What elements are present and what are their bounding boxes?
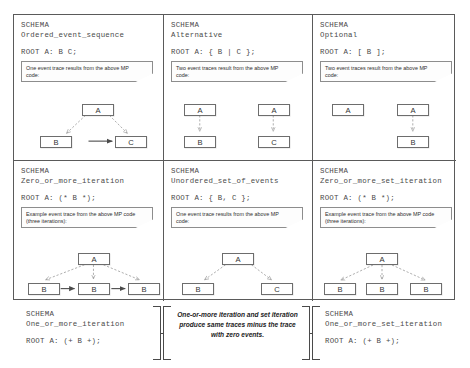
cell-ordered-event-sequence: SCHEMA Ordered_event_sequence ROOT A: B … — [14, 15, 164, 161]
event-node-b: B — [182, 283, 214, 295]
schema-name: One_or_more_set_iteration — [325, 320, 442, 328]
cell-alternative: SCHEMA Alternative ROOT A: { B | C }; Tw… — [164, 15, 313, 161]
event-node-b2: B — [366, 283, 398, 295]
event-node-b: B — [397, 136, 429, 148]
iteration-note-text: One-or-more iteration and set iteration … — [175, 310, 300, 340]
event-node-b3: B — [128, 283, 160, 295]
code-block: SCHEMA One_or_more_set_iteration — [319, 310, 455, 329]
schema-name: Zero_or_more_set_iteration — [320, 177, 442, 185]
event-node-a: A — [332, 104, 364, 116]
root-line: ROOT A: (* B *); — [320, 194, 456, 204]
root-line: ROOT A: (* B *); — [21, 194, 163, 204]
trace-callout: Two event traces result from the above M… — [171, 61, 303, 82]
schema-keyword: SCHEMA — [21, 167, 49, 175]
trace-callout: One event trace results from the above M… — [171, 207, 303, 228]
trace-callout: Example event trace from the above MP co… — [320, 207, 452, 228]
schema-keyword: SCHEMA — [320, 21, 348, 29]
schema-keyword: SCHEMA — [26, 310, 54, 318]
schema-keyword: SCHEMA — [320, 167, 348, 175]
trace-callout: Two event traces result from the above M… — [320, 61, 452, 82]
schema-name: Optional — [320, 31, 357, 39]
event-node-a: A — [82, 104, 114, 116]
event-node-a: A — [184, 104, 216, 116]
root-line: ROOT A: (+ B +); — [20, 337, 163, 347]
schema-name: Zero_or_more_iteration — [21, 177, 124, 185]
trace-callout: One event trace results from the above M… — [21, 61, 153, 82]
schema-keyword: SCHEMA — [171, 167, 199, 175]
code-block: SCHEMA Ordered_event_sequence — [21, 21, 163, 40]
event-node-c: C — [261, 283, 293, 295]
bottom-row: SCHEMA One_or_more_iteration ROOT A: (+ … — [13, 302, 455, 364]
event-node-a: A — [222, 253, 254, 265]
event-node-c: C — [115, 136, 147, 148]
cell-optional: SCHEMA Optional ROOT A: [ B ]; Two event… — [313, 15, 456, 161]
mp-schema-figure: SCHEMA Ordered_event_sequence ROOT A: B … — [0, 0, 470, 368]
trace-callout: Example event trace from the above MP co… — [21, 207, 153, 228]
event-node-a2: A — [258, 104, 290, 116]
cell-zero-or-more-iteration: SCHEMA Zero_or_more_iteration ROOT A: (*… — [14, 161, 164, 301]
event-node-a: A — [78, 253, 110, 265]
root-line: ROOT A: { B, C }; — [171, 194, 312, 204]
schema-keyword: SCHEMA — [325, 310, 353, 318]
schema-name: Alternative — [171, 31, 223, 39]
cell-iteration-note: One-or-more iteration and set iteration … — [163, 302, 312, 364]
schema-name: One_or_more_iteration — [26, 320, 124, 328]
code-block: SCHEMA Alternative — [171, 21, 312, 40]
root-line: ROOT A: (+ B +); — [319, 337, 455, 347]
code-block: SCHEMA Optional — [320, 21, 456, 40]
schema-name: Ordered_event_sequence — [21, 31, 124, 39]
code-block: SCHEMA Zero_or_more_iteration — [21, 167, 163, 186]
event-node-b1: B — [28, 283, 60, 295]
schema-grid: SCHEMA Ordered_event_sequence ROOT A: B … — [13, 14, 455, 300]
schema-keyword: SCHEMA — [21, 21, 49, 29]
bracket-left-icon — [163, 306, 171, 360]
root-line: ROOT A: [ B ]; — [320, 48, 456, 58]
bracket-right-icon — [153, 306, 161, 360]
root-line: ROOT A: { B | C }; — [171, 48, 312, 58]
root-line: ROOT A: B C; — [21, 48, 163, 58]
bracket-right-icon — [302, 306, 310, 360]
event-node-b1: B — [324, 283, 356, 295]
cell-one-or-more-set-iteration: SCHEMA One_or_more_set_iteration ROOT A:… — [312, 302, 455, 364]
code-block: SCHEMA Unordered_set_of_events — [171, 167, 312, 186]
event-node-a: A — [366, 253, 398, 265]
event-node-a2: A — [397, 104, 429, 116]
cell-zero-or-more-set-iteration: SCHEMA Zero_or_more_set_iteration ROOT A… — [313, 161, 456, 301]
event-node-b2: B — [78, 283, 110, 295]
event-node-c: C — [258, 136, 290, 148]
schema-keyword: SCHEMA — [171, 21, 199, 29]
code-block: SCHEMA Zero_or_more_set_iteration — [320, 167, 456, 186]
event-node-b3: B — [410, 283, 442, 295]
event-node-b: B — [40, 136, 72, 148]
code-block: SCHEMA One_or_more_iteration — [20, 310, 163, 329]
cell-unordered-set-of-events: SCHEMA Unordered_set_of_events ROOT A: {… — [164, 161, 313, 301]
bracket-left-icon — [312, 306, 320, 360]
schema-name: Unordered_set_of_events — [171, 177, 279, 185]
cell-one-or-more-iteration: SCHEMA One_or_more_iteration ROOT A: (+ … — [13, 302, 163, 364]
event-node-b: B — [184, 136, 216, 148]
